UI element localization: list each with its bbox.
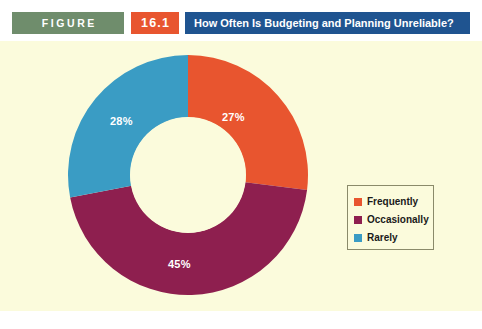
slice-label-frequently: 27%: [222, 111, 245, 123]
chart-legend: Frequently Occasionally Rarely: [347, 185, 434, 250]
figure-number-badge: 16.1: [131, 12, 179, 34]
legend-swatch-occasionally: [354, 216, 362, 224]
legend-item-frequently[interactable]: Frequently: [354, 193, 433, 210]
figure-tag-label: FIGURE: [12, 12, 124, 34]
page-bottom-strip: [0, 311, 482, 329]
page-title: How Often Is Budgeting and Planning Unre…: [185, 17, 454, 29]
slice-label-occasionally: 45%: [168, 258, 191, 270]
donut-hole: [130, 117, 246, 233]
figure-header: FIGURE 16.1 How Often Is Budgeting and P…: [0, 0, 482, 41]
figure-root: FIGURE 16.1 How Often Is Budgeting and P…: [0, 0, 482, 329]
donut-chart: 27% 28% 45%: [62, 49, 314, 301]
legend-label-rarely: Rarely: [367, 233, 398, 243]
legend-item-rarely[interactable]: Rarely: [354, 229, 433, 246]
legend-swatch-rarely: [354, 234, 362, 242]
legend-label-frequently: Frequently: [367, 197, 418, 207]
legend-label-occasionally: Occasionally: [367, 215, 429, 225]
figure-title-bar: How Often Is Budgeting and Planning Unre…: [185, 12, 470, 34]
legend-item-occasionally[interactable]: Occasionally: [354, 211, 433, 228]
chart-panel: 27% 28% 45% Frequently Occasionally Rare…: [0, 41, 482, 311]
legend-swatch-frequently: [354, 198, 362, 206]
slice-label-rarely: 28%: [110, 115, 133, 127]
